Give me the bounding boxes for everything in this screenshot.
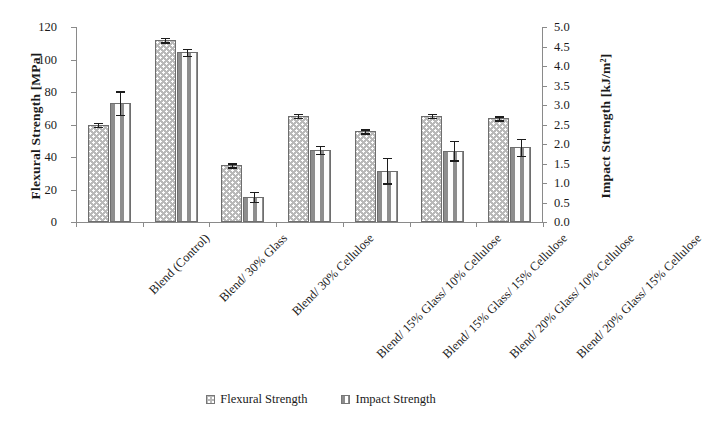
right-tick <box>542 125 547 126</box>
right-tick-label: 1.5 <box>554 158 614 170</box>
x-tick <box>209 222 210 227</box>
legend-swatch-flexural-icon <box>206 395 215 404</box>
left-tick-label: 60 <box>0 119 57 131</box>
error-bar-impact-cap <box>517 156 526 158</box>
x-tick <box>410 222 411 227</box>
bar-flexural <box>488 118 509 222</box>
error-bar-flexural-cap <box>361 133 370 135</box>
bar-impact <box>177 52 198 222</box>
x-category-label: Blend/ 15% Glass/ 15% Cellulose <box>440 231 571 362</box>
right-tick <box>542 183 547 184</box>
chart-legend: Flexural StrengthImpact Strength <box>0 392 642 407</box>
right-tick-label: 4.0 <box>554 60 614 72</box>
legend-swatch-impact-icon <box>341 395 350 404</box>
left-tick-label: 100 <box>0 54 57 66</box>
bar-impact <box>310 150 331 222</box>
bar-flexural <box>88 125 109 223</box>
error-bar-impact <box>387 158 388 184</box>
error-bar-impact-cap <box>450 141 459 143</box>
right-tick <box>542 105 547 106</box>
right-tick <box>542 27 547 28</box>
right-tick-label: 2.5 <box>554 119 614 131</box>
x-tick <box>143 222 144 227</box>
bar-impact <box>510 147 531 222</box>
error-bar-impact-cap <box>383 183 392 185</box>
right-tick <box>542 86 547 87</box>
left-tick-label: 120 <box>0 21 57 33</box>
error-bar-impact-cap <box>316 154 325 156</box>
x-tick <box>276 222 277 227</box>
bar-flexural <box>421 116 442 222</box>
x-category-label: Blend/ 20% Glass/ 15% Cellulose <box>573 231 704 362</box>
bar-flexural <box>288 116 309 222</box>
error-bar-flexural-cap <box>161 38 170 40</box>
legend-item: Flexural Strength <box>206 392 307 407</box>
right-tick <box>542 144 547 145</box>
left-tick <box>71 125 76 126</box>
right-tick-label: 5.0 <box>554 21 614 33</box>
right-tick <box>542 203 547 204</box>
error-bar-impact <box>454 141 455 161</box>
x-category-label: Blend/ 20% Glass/ 10% Cellulose <box>507 231 638 362</box>
legend-item: Impact Strength <box>341 392 435 407</box>
right-tick-label: 0.5 <box>554 197 614 209</box>
right-tick-label: 3.0 <box>554 99 614 111</box>
error-bar-impact-cap <box>116 115 125 117</box>
error-bar-flexural-cap <box>94 123 103 125</box>
error-bar-impact <box>254 192 255 202</box>
bar-flexural <box>155 40 176 222</box>
right-tick <box>542 47 547 48</box>
bar-impact <box>110 103 131 222</box>
left-tick <box>71 60 76 61</box>
error-bar-flexural-cap <box>294 114 303 116</box>
error-bar-flexural-cap <box>495 120 504 122</box>
left-axis-line <box>76 27 77 223</box>
plot-area: 020406080100120 0.00.51.01.52.02.53.03.5… <box>76 27 543 223</box>
left-tick <box>71 92 76 93</box>
left-tick-label: 40 <box>0 151 57 163</box>
x-category-label: Blend/ 15% Glass/ 10% Cellulose <box>373 231 504 362</box>
right-tick <box>542 66 547 67</box>
right-tick-label: 2.0 <box>554 138 614 150</box>
error-bar-impact-cap <box>316 146 325 148</box>
left-tick-label: 80 <box>0 86 57 98</box>
error-bar-flexural-cap <box>428 118 437 120</box>
x-tick <box>543 222 544 227</box>
left-tick <box>71 157 76 158</box>
x-tick <box>476 222 477 227</box>
bar-flexural <box>355 131 376 222</box>
error-bar-impact-cap <box>183 56 192 58</box>
error-bar-impact-cap <box>183 49 192 51</box>
error-bar-impact-cap <box>116 91 125 93</box>
legend-label: Flexural Strength <box>220 392 307 407</box>
error-bar-flexural-cap <box>228 167 237 169</box>
x-axis-line <box>76 222 543 223</box>
error-bar-impact-cap <box>450 160 459 162</box>
right-tick-label: 1.0 <box>554 177 614 189</box>
left-tick-label: 20 <box>0 184 57 196</box>
error-bar-flexural-cap <box>495 116 504 118</box>
error-bar-flexural-cap <box>161 42 170 44</box>
left-tick-label: 0 <box>0 216 57 228</box>
error-bar-impact-cap <box>250 202 259 204</box>
left-tick <box>71 27 76 28</box>
bar-flexural <box>221 165 242 222</box>
legend-label: Impact Strength <box>355 392 435 407</box>
error-bar-flexural-cap <box>94 127 103 129</box>
error-bar-impact <box>120 91 121 114</box>
error-bar-flexural-cap <box>294 118 303 120</box>
error-bar-flexural-cap <box>428 114 437 116</box>
error-bar-impact-cap <box>250 192 259 194</box>
x-category-label: Blend/ 30% Glass <box>217 231 291 305</box>
error-bar-impact <box>521 139 522 156</box>
right-tick-label: 4.5 <box>554 41 614 53</box>
right-tick-label: 0.0 <box>554 216 614 228</box>
error-bar-flexural-cap <box>361 129 370 131</box>
error-bar-impact-cap <box>517 139 526 141</box>
error-bar-impact-cap <box>383 158 392 160</box>
error-bar-flexural-cap <box>228 163 237 165</box>
right-tick <box>542 164 547 165</box>
x-tick <box>76 222 77 227</box>
x-category-label: Blend (Control) <box>147 231 214 298</box>
